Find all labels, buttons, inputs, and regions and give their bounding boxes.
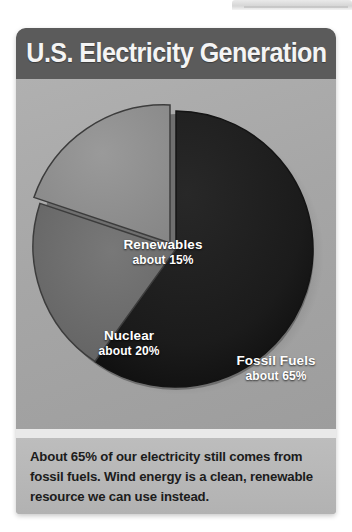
cropped-top-strip-line — [244, 6, 348, 8]
caption-divider — [16, 429, 336, 438]
page-title: U.S. Electricity Generation — [26, 38, 326, 69]
caption-text: About 65% of our electricity still comes… — [30, 447, 322, 507]
pie-chart-svg — [26, 89, 326, 409]
electricity-generation-figure-card: U.S. Electricity Generation — [16, 28, 336, 514]
cropped-top-strip — [232, 0, 352, 10]
figure-title-bar: U.S. Electricity Generation — [16, 28, 336, 79]
pie-chart-area: Renewables about 15% Nuclear about 20% F… — [16, 79, 336, 429]
pie-chart: Renewables about 15% Nuclear about 20% F… — [26, 89, 326, 409]
caption-panel: About 65% of our electricity still comes… — [16, 438, 336, 514]
